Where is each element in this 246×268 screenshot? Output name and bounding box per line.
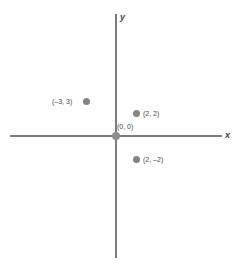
data-point	[133, 156, 140, 163]
data-point-label: (–3, 3)	[52, 98, 72, 105]
origin-point-label: (0, 0)	[117, 123, 133, 130]
coordinate-plane-figure: x y (–3, 3) (2, 2) (2, –2) (0, 0)	[0, 0, 246, 268]
x-axis-label: x	[225, 131, 230, 140]
data-point-label: (2, –2)	[143, 156, 163, 163]
data-point	[133, 110, 140, 117]
origin-point	[112, 132, 120, 140]
data-point-label: (2, 2)	[143, 110, 159, 117]
y-axis-label: y	[120, 13, 125, 22]
data-point	[83, 98, 90, 105]
